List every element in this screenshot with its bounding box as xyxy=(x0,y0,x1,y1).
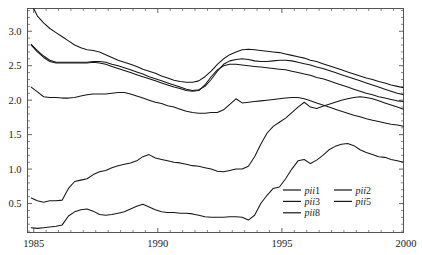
legend-label-pii1: pii1 xyxy=(304,185,321,196)
y-tick-label: 3.0 xyxy=(8,26,21,37)
plot-border xyxy=(28,9,404,233)
series-line-pii1 xyxy=(31,4,409,89)
chart-legend: pii1pii2pii3pii5pii8 xyxy=(283,185,371,219)
x-tick-label: 1990 xyxy=(147,238,168,249)
legend-label-pii3: pii3 xyxy=(304,196,321,207)
axis-ticks xyxy=(28,9,404,233)
line-chart: 1985199019952000 0.51.01.52.02.53.0 pii1… xyxy=(0,0,422,255)
y-tick-label: 2.5 xyxy=(8,60,21,71)
legend-label-pii2: pii2 xyxy=(355,185,372,196)
x-tick-label: 1985 xyxy=(23,238,44,249)
legend-label-pii5: pii5 xyxy=(355,196,372,207)
y-tick-label: 1.5 xyxy=(8,129,21,140)
plot-frame xyxy=(28,9,404,233)
y-tick-label: 0.5 xyxy=(8,198,21,209)
series-line-pii8 xyxy=(31,97,409,202)
x-axis-tick-labels: 1985199019952000 xyxy=(23,238,416,249)
y-axis-tick-labels: 0.51.01.52.02.53.0 xyxy=(8,26,21,209)
x-tick-label: 1995 xyxy=(271,238,292,249)
series-line-pii5 xyxy=(31,87,409,127)
chart-canvas: 1985199019952000 0.51.01.52.02.53.0 pii1… xyxy=(0,0,422,255)
legend-label-pii8: pii8 xyxy=(304,207,321,218)
x-tick-label: 2000 xyxy=(395,238,416,249)
y-tick-label: 1.0 xyxy=(8,164,21,175)
y-tick-label: 2.0 xyxy=(8,95,21,106)
